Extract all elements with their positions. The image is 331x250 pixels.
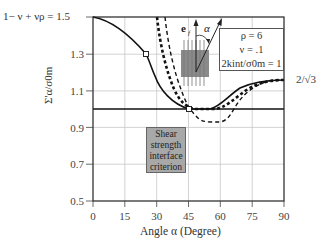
legend-nu: ν = .1	[220, 43, 283, 57]
y-ticks	[86, 17, 93, 201]
right-label: 2/√3	[296, 73, 316, 85]
x-ticks	[93, 201, 284, 207]
shear-line-2: strength	[147, 140, 185, 151]
top-left-label: 1− ν + νρ = 1.5	[3, 10, 70, 22]
svg-text:0.5: 0.5	[70, 195, 84, 207]
svg-text:0.7: 0.7	[70, 158, 84, 170]
alpha-label: α	[204, 22, 210, 34]
y-axis-label: Σ'α/σ0m	[42, 67, 54, 104]
svg-text:15: 15	[119, 210, 131, 222]
legend-k: 2kint/σ0m = 1	[220, 57, 283, 71]
svg-text:0.9: 0.9	[70, 122, 84, 134]
x-tick-labels: 0 15 30 45 60 75 90	[90, 210, 290, 222]
legend-box: ρ = 6 ν = .1 2kint/σ0m = 1	[219, 28, 284, 71]
ef-label: e	[181, 22, 186, 34]
ef-sub-label: f	[188, 29, 191, 37]
svg-text:1.1: 1.1	[70, 85, 84, 97]
svg-text:75: 75	[247, 210, 259, 222]
y-tick-labels: 1.3 1.1 0.9 0.7 0.5	[70, 48, 84, 207]
marker-square	[144, 52, 149, 57]
svg-text:0: 0	[90, 210, 96, 222]
svg-text:1.3: 1.3	[70, 48, 84, 60]
shear-line-4: criterion	[147, 162, 185, 173]
shear-line-3: interface	[147, 151, 185, 162]
legend-rho: ρ = 6	[220, 29, 283, 43]
svg-text:90: 90	[279, 210, 291, 222]
x-axis-label: Angle α (Degree)	[140, 225, 221, 237]
svg-text:30: 30	[151, 210, 163, 222]
svg-text:60: 60	[215, 210, 227, 222]
shear-line-1: Shear	[147, 129, 185, 140]
shear-criterion-box: Shear strength interface criterion	[146, 127, 186, 173]
svg-text:45: 45	[183, 210, 195, 222]
marker-square	[187, 107, 192, 112]
